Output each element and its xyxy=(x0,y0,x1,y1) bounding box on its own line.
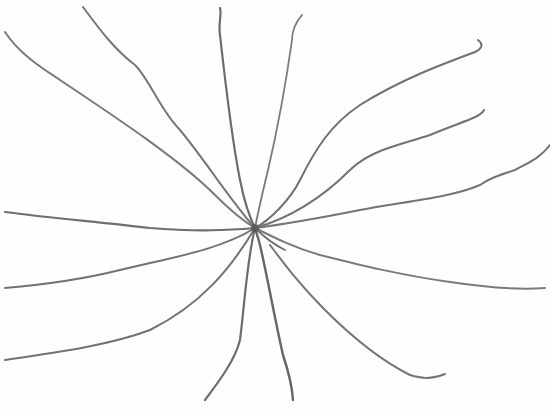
ray-right-upper xyxy=(255,110,484,228)
ray-down-left xyxy=(205,228,255,400)
center-knot xyxy=(251,224,259,232)
radiating-lines-sketch xyxy=(0,0,550,410)
ray-down xyxy=(255,228,293,400)
ray-up-right xyxy=(255,15,302,228)
ray-right-lower xyxy=(255,228,545,289)
ray-left xyxy=(5,212,255,230)
ray-right-far xyxy=(255,145,550,228)
sketch-canvas xyxy=(0,0,550,410)
ray-lower-left xyxy=(5,228,255,360)
ray-upper-right-hook xyxy=(255,40,481,228)
ray-up xyxy=(219,8,255,228)
stroke-group xyxy=(5,7,550,400)
